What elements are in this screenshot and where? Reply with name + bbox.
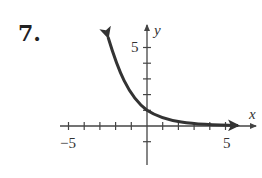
x-tick-label-5: 5 [223, 135, 231, 151]
x-axis-label: x [248, 106, 256, 122]
curve [108, 37, 238, 126]
y-tick-label-5: 5 [131, 39, 139, 55]
exponential-graph: y x 5 −5 5 [0, 0, 262, 178]
x-tick-label-neg5: −5 [60, 135, 76, 151]
y-axis-label: y [152, 22, 161, 38]
